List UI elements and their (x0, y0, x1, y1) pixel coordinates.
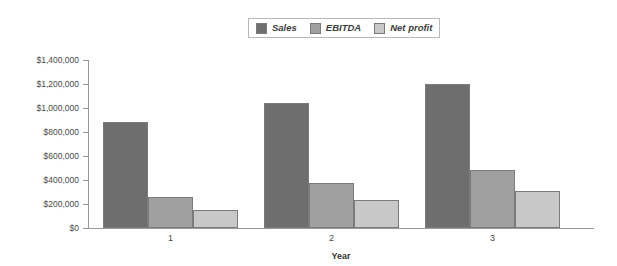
bar-sales-year-1[interactable] (103, 122, 148, 228)
y-axis-tick-mark (83, 228, 88, 229)
y-axis-tick-mark (83, 156, 88, 157)
x-axis-category-label: 3 (490, 234, 495, 243)
legend-item-ebitda[interactable]: EBITDA (310, 23, 361, 34)
y-axis-tick-mark (83, 84, 88, 85)
plot-area: $0$200,000$400,000$600,000$800,000$1,000… (88, 60, 594, 228)
y-axis-tick-label: $600,000 (44, 152, 79, 161)
y-axis-tick-mark (83, 108, 88, 109)
y-axis-tick-label: $0 (70, 224, 79, 233)
x-axis-category-label: 1 (168, 234, 173, 243)
x-axis-title: Year (88, 252, 594, 261)
legend-item-sales[interactable]: Sales (256, 23, 297, 34)
bar-net-profit-year-3[interactable] (515, 191, 560, 228)
y-axis-tick-label: $1,400,000 (36, 56, 79, 65)
x-axis-line (88, 228, 594, 229)
bar-sales-year-2[interactable] (264, 103, 309, 228)
y-axis-tick-mark (83, 132, 88, 133)
y-axis-tick-label: $400,000 (44, 176, 79, 185)
chart-legend: SalesEBITDANet profit (248, 18, 440, 38)
legend-label: EBITDA (326, 23, 361, 33)
legend-swatch-icon (256, 23, 267, 34)
legend-label: Net profit (390, 23, 432, 33)
bar-ebitda-year-2[interactable] (309, 183, 354, 228)
bar-net-profit-year-2[interactable] (354, 200, 399, 228)
bar-ebitda-year-3[interactable] (470, 170, 515, 228)
bar-sales-year-3[interactable] (425, 84, 470, 228)
y-axis-tick-mark (83, 180, 88, 181)
bar-ebitda-year-1[interactable] (148, 197, 193, 228)
x-axis-category-label: 2 (329, 234, 334, 243)
legend-swatch-icon (374, 23, 385, 34)
y-axis-tick-label: $800,000 (44, 128, 79, 137)
bar-series-container (89, 60, 594, 228)
y-axis-tick-mark (83, 60, 88, 61)
y-axis-tick-label: $1,200,000 (36, 80, 79, 89)
bar-net-profit-year-1[interactable] (193, 210, 238, 228)
legend-swatch-icon (310, 23, 321, 34)
legend-label: Sales (272, 23, 297, 33)
bar-chart: SalesEBITDANet profit $0$200,000$400,000… (0, 0, 617, 266)
y-axis-tick-mark (83, 204, 88, 205)
legend-item-net-profit[interactable]: Net profit (374, 23, 432, 34)
y-axis-tick-label: $200,000 (44, 200, 79, 209)
y-axis-tick-label: $1,000,000 (36, 104, 79, 113)
